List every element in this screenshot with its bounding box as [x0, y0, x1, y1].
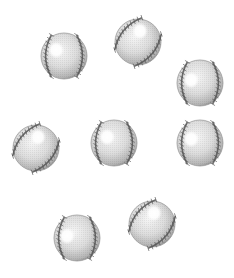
baseball — [41, 33, 87, 79]
baseball — [177, 60, 223, 106]
baseball-scene — [0, 0, 234, 278]
baseball-highlight — [99, 129, 115, 146]
baseball — [108, 11, 169, 72]
baseball-highlight — [132, 23, 148, 40]
baseballs-canvas — [0, 0, 234, 278]
baseball-highlight — [183, 131, 199, 148]
baseball — [122, 193, 183, 254]
baseball-highlight — [59, 228, 75, 245]
baseball — [6, 117, 67, 178]
baseball-highlight — [30, 129, 46, 146]
baseball-highlight — [183, 72, 199, 89]
baseball-highlight — [146, 205, 162, 222]
baseball — [54, 215, 100, 261]
baseball-highlight — [48, 42, 64, 59]
baseball — [177, 120, 223, 166]
baseball — [91, 120, 137, 166]
